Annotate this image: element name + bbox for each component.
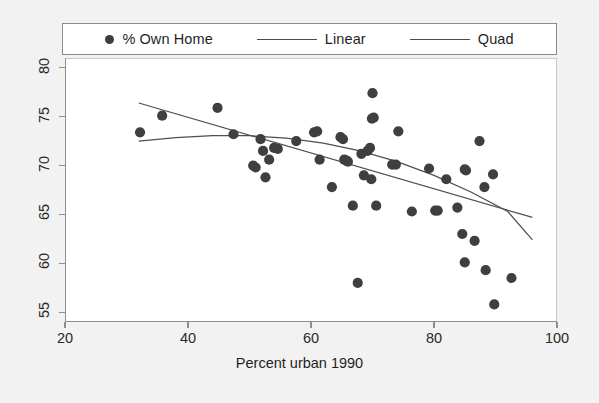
chart-legend: % Own Home Linear Quad (62, 23, 557, 55)
data-point (488, 169, 498, 179)
data-point (469, 236, 479, 246)
data-point (460, 257, 470, 267)
data-point (255, 134, 265, 144)
line-sample-icon-quad (410, 39, 470, 40)
x-tick-mark (556, 322, 557, 328)
data-point (391, 159, 401, 169)
data-point (407, 206, 417, 216)
data-point (369, 113, 379, 123)
data-point (291, 136, 301, 146)
data-point (393, 126, 403, 136)
x-tick-mark (64, 322, 65, 328)
data-point (251, 162, 261, 172)
data-point (260, 172, 270, 182)
legend-label-quad: Quad (478, 31, 514, 47)
data-point (327, 182, 337, 192)
data-point (348, 201, 358, 211)
data-point (506, 273, 516, 283)
x-tick-label: 80 (426, 330, 442, 346)
data-point (474, 136, 484, 146)
data-point (212, 103, 222, 113)
x-tick-label: 60 (303, 330, 319, 346)
x-tick-mark (433, 322, 434, 328)
y-tick-label: 75 (0, 107, 52, 123)
x-axis-title: Percent urban 1990 (0, 355, 599, 371)
x-tick-label: 40 (180, 330, 196, 346)
data-point (353, 278, 363, 288)
data-point (457, 229, 467, 239)
data-point (367, 88, 377, 98)
data-point (258, 146, 268, 156)
y-tick-label: 70 (0, 156, 52, 172)
plot-data-layer (65, 58, 557, 322)
marker-dot-icon (105, 35, 114, 44)
data-point (441, 174, 451, 184)
legend-label-linear: Linear (325, 31, 366, 47)
data-point (461, 165, 471, 175)
y-tick-label: 60 (0, 253, 52, 269)
line-sample-icon-linear (257, 39, 317, 40)
data-point (481, 265, 491, 275)
fit-line-linear (139, 103, 533, 217)
data-point (264, 155, 274, 165)
data-point (312, 126, 322, 136)
data-point (371, 201, 381, 211)
data-point (433, 205, 443, 215)
data-point (315, 155, 325, 165)
x-tick-mark (187, 322, 188, 328)
data-point (157, 111, 167, 121)
legend-entry-linear: Linear (257, 31, 366, 47)
data-point (343, 157, 353, 167)
scatter-plot-figure: % Own Home Linear Quad 556065707580 2040… (0, 0, 599, 403)
legend-label-own-home: % Own Home (122, 31, 212, 47)
x-tick-label: 20 (57, 330, 73, 346)
y-tick-label: 65 (0, 204, 52, 220)
data-point (489, 299, 499, 309)
x-tick-mark (310, 322, 311, 328)
data-point (479, 182, 489, 192)
legend-entry-quad: Quad (410, 31, 514, 47)
data-point (228, 129, 238, 139)
legend-entry-own-home: % Own Home (105, 31, 212, 47)
data-point (365, 143, 375, 153)
data-point (338, 134, 348, 144)
data-point (366, 174, 376, 184)
y-tick-label: 80 (0, 58, 52, 74)
data-point (273, 144, 283, 154)
data-point (452, 203, 462, 213)
x-tick-label: 100 (545, 330, 569, 346)
data-point (424, 163, 434, 173)
data-point (135, 127, 145, 137)
y-tick-label: 55 (0, 302, 52, 318)
